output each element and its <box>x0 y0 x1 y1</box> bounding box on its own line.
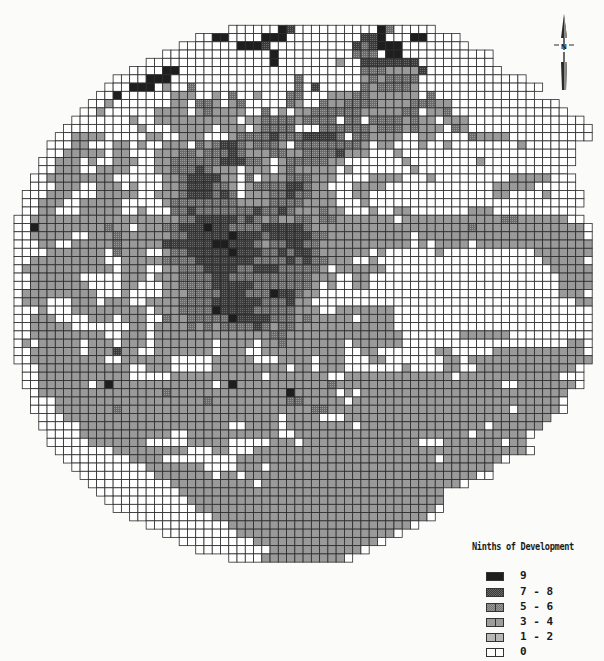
grid-cell <box>320 496 328 504</box>
grid-cell <box>154 405 162 413</box>
grid-cell <box>171 232 179 240</box>
grid-cell <box>394 182 402 190</box>
grid-cell <box>287 116 295 124</box>
grid-cell <box>22 339 30 347</box>
grid-cell <box>14 331 22 339</box>
grid-cell <box>221 257 229 265</box>
grid-cell <box>187 537 195 545</box>
grid-cell <box>278 323 286 331</box>
grid-cell <box>510 422 518 430</box>
grid-cell <box>468 397 476 405</box>
grid-cell <box>336 380 344 388</box>
grid-cell <box>278 91 286 99</box>
grid-cell <box>262 290 270 298</box>
grid-cell <box>22 190 30 198</box>
grid-cell <box>64 405 72 413</box>
grid-cell <box>187 141 195 149</box>
grid-cell <box>47 438 55 446</box>
grid-cell <box>55 397 63 405</box>
grid-cell <box>510 281 518 289</box>
grid-cell <box>254 257 262 265</box>
grid-cell <box>138 265 146 273</box>
grid-cell <box>229 405 237 413</box>
grid-cell <box>80 413 88 421</box>
grid-cell <box>229 422 237 430</box>
grid-cell <box>394 290 402 298</box>
grid-cell <box>460 265 468 273</box>
grid-cell <box>130 339 138 347</box>
grid-cell <box>97 215 105 223</box>
grid-cell <box>328 364 336 372</box>
grid-cell <box>344 25 352 33</box>
grid-cell <box>254 67 262 75</box>
grid-cell <box>245 224 253 232</box>
grid-cell <box>196 240 204 248</box>
grid-cell <box>320 25 328 33</box>
grid-cell <box>435 58 443 66</box>
grid-cell <box>510 83 518 91</box>
grid-cell <box>270 488 278 496</box>
grid-cell <box>427 199 435 207</box>
grid-cell <box>402 306 410 314</box>
grid-cell <box>311 496 319 504</box>
grid-cell <box>386 108 394 116</box>
grid-cell <box>369 323 377 331</box>
grid-cell <box>229 190 237 198</box>
grid-cell <box>394 265 402 273</box>
grid-cell <box>311 447 319 455</box>
grid-cell <box>221 224 229 232</box>
grid-cell <box>460 463 468 471</box>
grid-cell <box>254 116 262 124</box>
grid-cell <box>245 430 253 438</box>
grid-cell <box>534 240 542 248</box>
grid-cell <box>171 364 179 372</box>
grid-cell <box>130 240 138 248</box>
grid-cell <box>311 248 319 256</box>
grid-cell <box>361 413 369 421</box>
grid-cell <box>501 298 509 306</box>
grid-cell <box>493 91 501 99</box>
grid-cell <box>410 248 418 256</box>
grid-cell <box>146 100 154 108</box>
grid-cell <box>212 471 220 479</box>
grid-cell <box>410 91 418 99</box>
grid-cell <box>477 149 485 157</box>
grid-cell <box>237 413 245 421</box>
grid-cell <box>303 521 311 529</box>
grid-cell <box>245 447 253 455</box>
grid-cell <box>179 141 187 149</box>
grid-cell <box>311 546 319 554</box>
grid-cell <box>196 281 204 289</box>
grid-cell <box>171 290 179 298</box>
grid-cell <box>427 290 435 298</box>
grid-cell <box>237 372 245 380</box>
grid-cell <box>377 273 385 281</box>
grid-cell <box>245 83 253 91</box>
grid-cell <box>179 496 187 504</box>
grid-cell <box>485 372 493 380</box>
grid-cell <box>204 397 212 405</box>
grid-cell <box>105 347 113 355</box>
grid-cell <box>344 306 352 314</box>
grid-cell <box>402 455 410 463</box>
grid-cell <box>551 372 559 380</box>
grid-cell <box>204 546 212 554</box>
grid-cell <box>254 356 262 364</box>
grid-cell <box>229 306 237 314</box>
grid-cell <box>179 174 187 182</box>
grid-cell <box>31 248 39 256</box>
grid-cell <box>121 190 129 198</box>
grid-cell <box>55 331 63 339</box>
grid-cell <box>113 455 121 463</box>
grid-cell <box>361 447 369 455</box>
grid-cell <box>534 273 542 281</box>
grid-cell <box>221 447 229 455</box>
grid-cell <box>485 339 493 347</box>
grid-cell <box>328 75 336 83</box>
grid-cell <box>287 364 295 372</box>
grid-cell <box>336 455 344 463</box>
grid-cell <box>402 174 410 182</box>
grid-cell <box>287 306 295 314</box>
grid-cell <box>361 389 369 397</box>
grid-cell <box>336 149 344 157</box>
